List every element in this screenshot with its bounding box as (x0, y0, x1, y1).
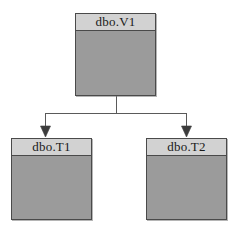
node-dbo-v1[interactable]: dbo.V1 (75, 13, 156, 96)
node-dbo-t2-body (147, 156, 226, 219)
node-dbo-v1-body (76, 31, 155, 95)
node-dbo-t1-body (12, 156, 91, 219)
node-dbo-t2[interactable]: dbo.T2 (146, 138, 227, 220)
edge-view-to-table-1 (46, 114, 117, 129)
arrowhead-table-1 (41, 126, 51, 137)
node-dbo-t2-title: dbo.T2 (147, 139, 226, 156)
node-dbo-v1-title: dbo.V1 (76, 14, 155, 31)
edge-view-to-table-2 (117, 114, 187, 129)
node-dbo-t1-title: dbo.T1 (12, 139, 91, 156)
arrowhead-table-2 (182, 126, 192, 137)
diagram-canvas: dbo.V1 dbo.T1 dbo.T2 (0, 0, 233, 227)
node-dbo-t1[interactable]: dbo.T1 (11, 138, 92, 220)
